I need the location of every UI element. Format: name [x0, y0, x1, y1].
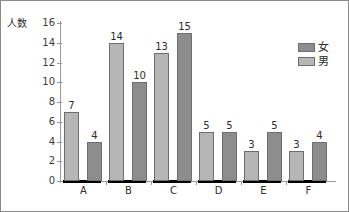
y-axis-tick-value: 16	[29, 18, 55, 28]
y-axis-tick-value: 0	[29, 176, 55, 186]
legend-label-female: 女	[318, 42, 329, 53]
y-axis-tick-label: 2	[29, 156, 55, 166]
plot-area: 7414101315553534	[61, 23, 331, 181]
y-axis-tick-label: 14	[29, 38, 55, 48]
x-axis-label-C: C	[151, 185, 196, 196]
legend-item-male: 男	[298, 55, 342, 68]
bar-group: 35	[241, 23, 286, 181]
x-axis-label-F: F	[286, 185, 331, 196]
bar-C-男: 13	[154, 53, 169, 181]
bar-value-label: 5	[271, 121, 277, 131]
bar-group: 1410	[106, 23, 151, 181]
bar-value-label: 4	[316, 131, 322, 141]
y-axis-tick-label: 16	[29, 18, 55, 28]
bar-A-男: 7	[64, 112, 79, 181]
bar-D-女: 5	[222, 132, 237, 181]
bar-value-label: 3	[293, 140, 299, 150]
bar-value-label: 10	[133, 71, 146, 81]
chart-legend: 女 男	[298, 41, 342, 69]
y-axis-tick-label: 4	[29, 137, 55, 147]
y-axis-tick-value: 14	[29, 38, 55, 48]
bar-value-label: 15	[178, 22, 191, 32]
bar-chart: 人数 0246810121416 7414101315553534 ABCDEF…	[0, 0, 349, 212]
bar-value-label: 3	[248, 140, 254, 150]
bar-F-女: 4	[312, 142, 327, 182]
bar-value-label: 14	[110, 32, 123, 42]
bar-value-label: 5	[226, 121, 232, 131]
y-axis-tick-value: 8	[29, 97, 55, 107]
legend-label-male: 男	[318, 56, 329, 67]
bar-F-男: 3	[289, 151, 304, 181]
y-axis-title: 人数	[7, 18, 27, 29]
bar-value-label: 4	[91, 131, 97, 141]
male-swatch-icon	[298, 57, 315, 66]
y-axis-tick-label: 12	[29, 58, 55, 68]
bar-D-男: 5	[199, 132, 214, 181]
y-axis-tick-value: 12	[29, 58, 55, 68]
female-swatch-icon	[298, 43, 315, 52]
y-axis-tick-value: 4	[29, 137, 55, 147]
bar-value-label: 7	[68, 101, 74, 111]
y-axis-tick	[57, 181, 62, 182]
y-axis-tick-label: 6	[29, 117, 55, 127]
bar-group: 74	[61, 23, 106, 181]
bar-E-男: 3	[244, 151, 259, 181]
x-axis-label-E: E	[241, 185, 286, 196]
y-axis-tick-value: 6	[29, 117, 55, 127]
legend-item-female: 女	[298, 41, 342, 54]
x-axis-label-A: A	[61, 185, 106, 196]
bar-value-label: 5	[203, 121, 209, 131]
y-axis-tick-value: 2	[29, 156, 55, 166]
x-axis-label-B: B	[106, 185, 151, 196]
y-axis-tick-label: 0	[29, 176, 55, 186]
y-axis-tick-label: 8	[29, 97, 55, 107]
bar-group: 55	[196, 23, 241, 181]
x-axis-label-D: D	[196, 185, 241, 196]
bar-B-女: 10	[132, 82, 147, 181]
y-axis-tick-value: 10	[29, 77, 55, 87]
bar-value-label: 13	[155, 42, 168, 52]
bar-C-女: 15	[177, 33, 192, 181]
bar-E-女: 5	[267, 132, 282, 181]
bar-A-女: 4	[87, 142, 102, 182]
bar-B-男: 14	[109, 43, 124, 181]
bar-group: 1315	[151, 23, 196, 181]
y-axis-tick-label: 10	[29, 77, 55, 87]
